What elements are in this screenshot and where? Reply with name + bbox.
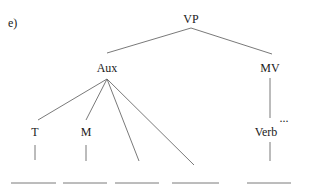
ellipsis: ... xyxy=(280,111,289,125)
edge-vp-aux xyxy=(107,28,191,53)
node-vp: VP xyxy=(183,12,199,26)
node-t: T xyxy=(31,125,39,139)
syntax-tree-diagram: e) VPAuxMVTMVerb... xyxy=(0,0,311,194)
edge-vp-mv xyxy=(191,28,272,54)
edge-aux-blank-3 xyxy=(107,79,139,161)
tree-edges xyxy=(35,28,272,165)
node-m: M xyxy=(81,125,92,139)
node-aux: Aux xyxy=(97,61,118,75)
diagram-label: e) xyxy=(8,16,17,30)
node-mv: MV xyxy=(260,61,280,75)
node-verb: Verb xyxy=(255,125,278,139)
edge-aux-blank-4 xyxy=(107,79,194,165)
tree-nodes: VPAuxMVTMVerb... xyxy=(31,12,288,139)
